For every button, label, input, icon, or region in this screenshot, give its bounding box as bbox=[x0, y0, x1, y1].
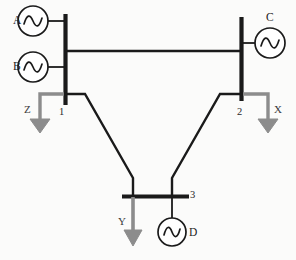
gen-c-symbol[interactable] bbox=[255, 28, 285, 58]
transmission-lines bbox=[65, 51, 242, 196]
load-x-arrow[interactable] bbox=[243, 94, 278, 133]
load-x-path bbox=[243, 94, 268, 120]
gen-b-symbol[interactable] bbox=[18, 52, 48, 82]
gen-a-symbol[interactable] bbox=[18, 6, 48, 36]
one-line-diagram-canvas: A B C D 1 2 3 Z X Y bbox=[0, 0, 296, 260]
load-x-label: X bbox=[274, 104, 282, 115]
load-z-label: Z bbox=[24, 104, 31, 115]
gen-b-label: B bbox=[13, 61, 21, 73]
bus-2-label: 2 bbox=[237, 107, 242, 118]
load-z-arrowhead bbox=[30, 119, 50, 133]
load-y-arrowhead bbox=[124, 230, 142, 246]
gen-d-label: D bbox=[189, 227, 197, 239]
diagram-svg bbox=[0, 0, 296, 260]
gen-d-symbol[interactable] bbox=[158, 218, 186, 246]
line-1-3 bbox=[65, 94, 133, 196]
bus-1-label: 1 bbox=[59, 107, 64, 118]
gen-c-label: C bbox=[266, 12, 274, 24]
load-y-label: Y bbox=[118, 216, 126, 227]
line-2-3 bbox=[172, 94, 242, 196]
load-x-arrowhead bbox=[258, 119, 278, 133]
gen-a-label: A bbox=[13, 15, 21, 27]
generator-symbols bbox=[18, 6, 285, 246]
load-y-arrow[interactable] bbox=[124, 197, 142, 246]
bus-3-label: 3 bbox=[190, 190, 195, 201]
